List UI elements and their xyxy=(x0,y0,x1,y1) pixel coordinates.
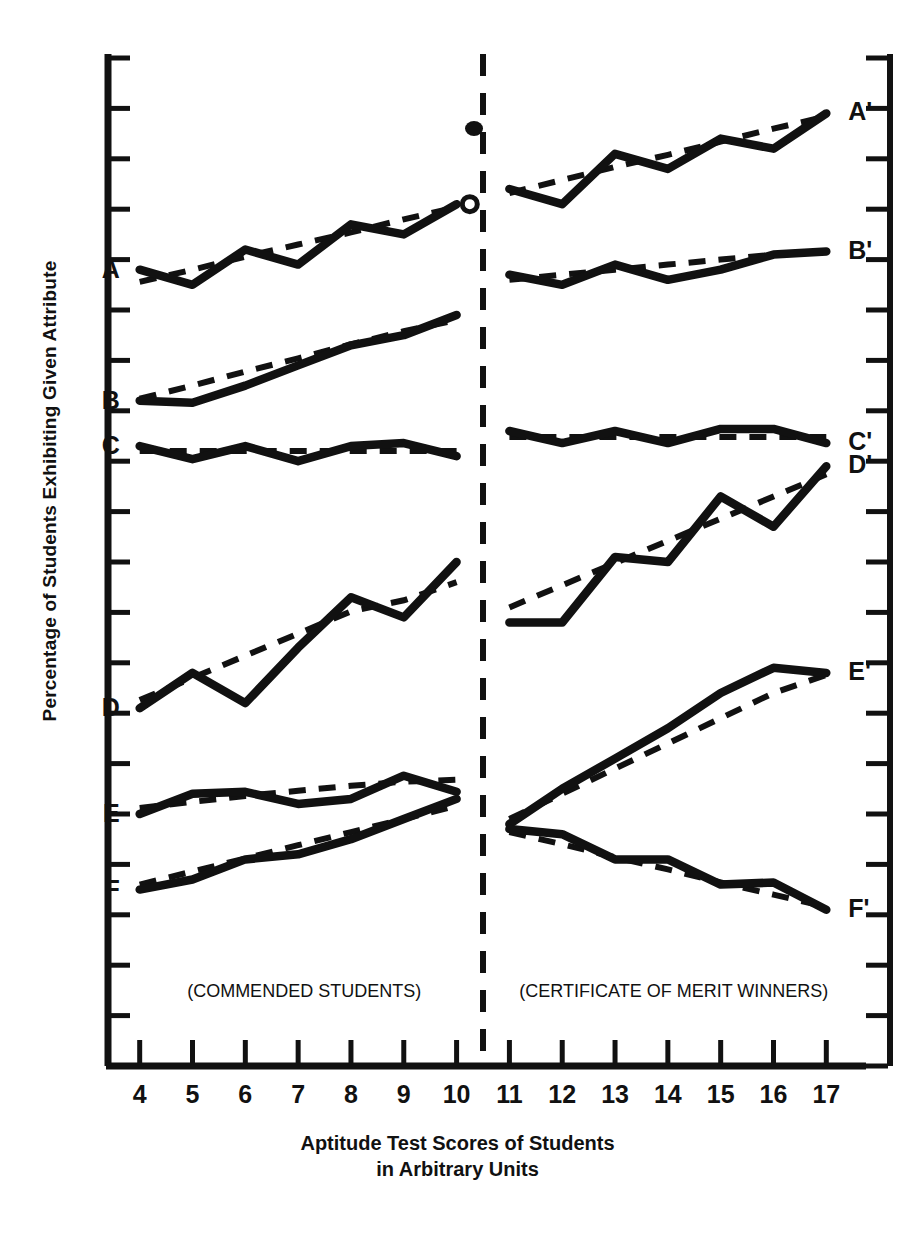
series-B-prime: B' xyxy=(509,236,872,285)
x-axis-tick-label: 9 xyxy=(397,1080,411,1108)
trend-line-A-prime xyxy=(509,117,826,194)
data-line-B-prime xyxy=(509,252,826,285)
series-C-prime: C' xyxy=(509,427,872,455)
x-axis-tick-label: 12 xyxy=(548,1080,576,1108)
series-label-C: C xyxy=(102,431,120,459)
series-label-B: B xyxy=(102,386,120,414)
left-panel-caption: (COMMENDED STUDENTS) xyxy=(187,981,421,1001)
data-line-D-prime xyxy=(509,466,826,622)
series-D: D xyxy=(102,562,457,721)
series-A: A xyxy=(102,204,457,285)
x-axis-tick-label: 6 xyxy=(238,1080,252,1108)
series-F: F xyxy=(104,799,456,903)
x-axis-tick-label: 15 xyxy=(707,1080,735,1108)
series-F-prime: F' xyxy=(509,829,869,922)
series-C: C xyxy=(102,431,457,461)
series-label-D: D xyxy=(102,693,120,721)
series-label-E-prime: E' xyxy=(848,657,871,685)
series-D-prime: D' xyxy=(509,450,872,622)
x-axis-tick-label: 4 xyxy=(133,1080,147,1108)
series-label-F-prime: F' xyxy=(848,894,869,922)
ink-blob xyxy=(465,121,483,136)
series-A-prime: A' xyxy=(509,97,872,204)
series-label-A: A xyxy=(102,255,120,283)
data-line-D xyxy=(140,562,457,708)
x-axis-title-line-2: in Arbitrary Units xyxy=(0,1156,915,1182)
x-axis-tick-label: 8 xyxy=(344,1080,358,1108)
x-axis-tick-label: 5 xyxy=(186,1080,200,1108)
series-label-A-prime: A' xyxy=(848,97,872,125)
trend-line-D-prime xyxy=(509,474,826,607)
data-line-E-prime xyxy=(509,668,826,824)
series-B: B xyxy=(102,315,457,414)
data-line-E xyxy=(140,776,457,814)
right-panel-caption: (CERTIFICATE OF MERIT WINNERS) xyxy=(519,981,828,1001)
series-label-F: F xyxy=(104,875,119,903)
series-E-prime: E' xyxy=(509,657,871,824)
y-axis-title: Percentage of Students Exhibiting Given … xyxy=(39,171,61,811)
trend-line-F-prime xyxy=(509,832,826,907)
trend-line-A xyxy=(140,207,457,282)
series-label-B-prime: B' xyxy=(848,236,872,264)
x-axis-title-line-1: Aptitude Test Scores of Students xyxy=(0,1130,915,1156)
x-axis-tick-label: 10 xyxy=(443,1080,471,1108)
x-axis-tick-label: 14 xyxy=(654,1080,682,1108)
x-axis-tick-label: 16 xyxy=(760,1080,788,1108)
trend-line-D xyxy=(140,582,457,700)
x-axis-tick-label: 13 xyxy=(601,1080,629,1108)
series-label-D-prime: D' xyxy=(848,450,872,478)
x-axis-tick-label: 7 xyxy=(291,1080,305,1108)
x-axis-tick-label: 17 xyxy=(812,1080,840,1108)
x-axis-title: Aptitude Test Scores of Students in Arbi… xyxy=(0,1130,915,1182)
chart-canvas: 4567891011121314151617(COMMENDED STUDENT… xyxy=(0,0,915,1244)
open-circle-marker xyxy=(462,197,477,212)
figure-root: Percentage of Students Exhibiting Given … xyxy=(0,0,915,1244)
series-label-E: E xyxy=(103,799,120,827)
x-axis-tick-label: 11 xyxy=(496,1080,523,1108)
